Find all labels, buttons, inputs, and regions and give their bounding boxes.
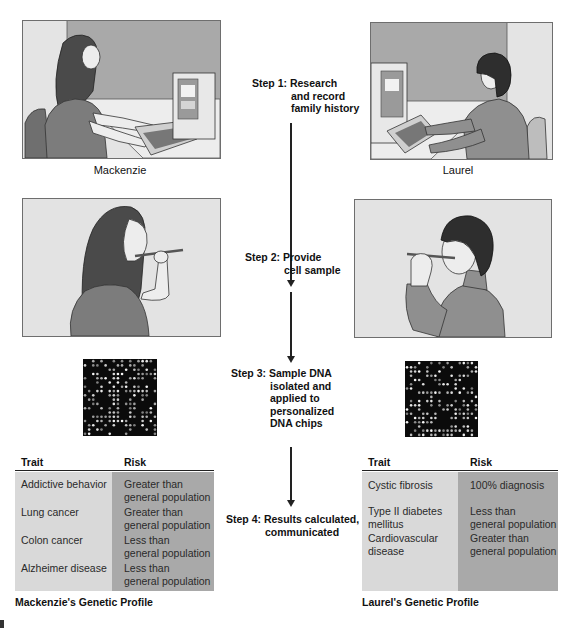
trait-line: Cystic fibrosis [368,479,433,492]
arrow-step-2-to-3 [290,292,292,357]
trait-line: disease [368,545,438,558]
table-row-risk: Less than general population [124,562,210,587]
page-corner-mark [0,620,4,628]
risk-line: Greater than [124,478,210,491]
step-3-line: personalized [231,405,334,418]
table-row-risk: 100% diagnosis [470,479,544,492]
arrow-step-3-to-4 [290,447,292,501]
risk-line: general population [470,545,556,558]
step-3-line: applied to [231,392,334,405]
step-1: Step 1: Research and record family histo… [252,77,359,115]
risk-line: general population [470,518,556,531]
risk-line: Less than [470,505,556,518]
risk-line: general population [124,575,210,588]
table-row-trait: Addictive behavior [21,478,107,491]
step-2-lead: Step 2: [245,251,280,263]
step-3-line: Sample DNA [269,367,332,379]
table-row-risk: Less than general population [470,505,556,530]
step-3-line: DNA chips [231,417,334,430]
step-3: Step 3: Sample DNA isolated and applied … [231,367,334,430]
trait-line: mellitus [368,518,442,531]
dna-microarray-icon [405,361,478,437]
table-row-trait: Alzheimer disease [21,562,107,575]
cheek-swab-icon [23,199,220,336]
table-row-trait: Cardiovascular disease [368,532,438,557]
table-header: Trait Risk [15,453,214,471]
header-trait: Trait [21,456,43,469]
step-2: Step 2: Provide cell sample [245,251,341,276]
risk-line: Greater than [124,506,210,519]
woman-at-computer-icon [23,21,220,158]
step-4-lead: Step 4: [226,513,261,525]
trait-line: Type II diabetes [368,505,442,518]
profile-caption-left: Mackenzie's Genetic Profile [15,596,153,608]
step-3-line: isolated and [231,380,334,393]
table-row-risk: Less than general population [124,534,210,559]
step-2-line: Provide [283,251,322,263]
dna-chip-right [405,361,478,437]
step-4-line: Results calculated, [264,513,359,525]
person-name-left: Mackenzie [60,164,180,176]
risk-line: Less than [124,562,210,575]
table-row-trait: Cystic fibrosis [368,479,433,492]
table-row-risk: Greater than general population [124,478,210,503]
person-name-right: Laurel [398,164,518,176]
dna-microarray-icon [83,359,157,436]
table-row-trait: Type II diabetes mellitus [368,505,442,530]
risk-line: Greater than [470,532,556,545]
dna-chip-left [83,359,157,436]
illustration-laurel-cheek-swab [354,199,552,338]
risk-line: general population [124,547,210,560]
step-4: Step 4: Results calculated, communicated [226,513,359,538]
step-3-lead: Step 3: [231,367,266,379]
illustration-mackenzie-computer [22,20,221,159]
genetic-profile-table-left: Trait Risk Addictive behavior Greater th… [15,453,214,591]
illustration-mackenzie-cheek-swab [22,198,221,337]
header-risk: Risk [470,456,492,469]
table-row-risk: Greater than general population [124,506,210,531]
risk-line: general population [124,491,210,504]
table-header: Trait Risk [362,453,558,471]
step-1-line: family history [252,102,359,115]
profile-caption-right: Laurel's Genetic Profile [362,596,479,608]
step-1-line: Research [290,77,337,89]
table-row-risk: Greater than general population [470,532,556,557]
step-1-line: and record [252,90,359,103]
step-2-line: cell sample [245,264,341,277]
illustration-laurel-computer [370,22,553,160]
cheek-swab-icon [355,200,551,337]
genetic-profile-table-right: Trait Risk Cystic fibrosis 100% diagnosi… [362,453,558,591]
header-risk: Risk [124,456,146,469]
table-row-trait: Colon cancer [21,534,83,547]
woman-at-computer-icon [371,23,552,159]
step-1-lead: Step 1: [252,77,287,89]
step-4-line: communicated [226,526,359,539]
table-row-trait: Lung cancer [21,506,79,519]
trait-line: Cardiovascular [368,532,438,545]
risk-line: 100% diagnosis [470,479,544,492]
risk-line: general population [124,519,210,532]
header-trait: Trait [368,456,390,469]
risk-line: Less than [124,534,210,547]
